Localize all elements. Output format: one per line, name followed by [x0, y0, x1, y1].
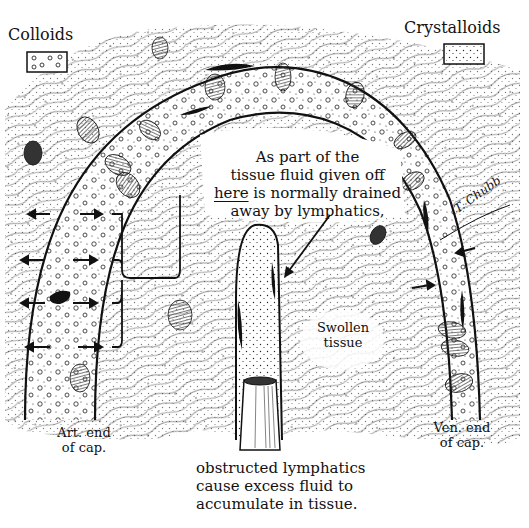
swollen-tissue-label: Swollen tissue [300, 320, 386, 350]
ven-end-label: Ven. end of cap. [422, 420, 502, 450]
main-note-line2: tissue fluid given off [195, 166, 420, 184]
diagram-canvas: Colloids Crystalloids As part of the tis… [0, 0, 529, 528]
main-note-line3: here is normally drained [195, 184, 420, 202]
swollen-line2: tissue [300, 335, 386, 350]
art-end-label: Art. end of cap. [44, 425, 124, 455]
ven-end-line2: of cap. [422, 435, 502, 450]
main-note-line3-rest: is normally drained [249, 184, 402, 202]
main-note-line1: As part of the [195, 148, 420, 166]
main-note-line4: away by lymphatics, [195, 202, 420, 220]
main-annotation: As part of the tissue fluid given off he… [195, 148, 420, 220]
legend-crystalloids-label: Crystalloids [404, 20, 501, 37]
bottom-note-line1: obstructed lymphatics [196, 459, 396, 477]
ven-end-line1: Ven. end [422, 420, 502, 435]
bottom-note-line2: cause excess fluid to [196, 477, 396, 495]
legend-colloids-label: Colloids [8, 27, 73, 44]
bottom-annotation: obstructed lymphatics cause excess fluid… [196, 459, 396, 513]
art-end-line2: of cap. [44, 440, 124, 455]
lymphatic-vessel [236, 225, 282, 450]
swollen-line1: Swollen [300, 320, 386, 335]
bottom-note-line3: accumulate in tissue. [196, 495, 396, 513]
art-end-line1: Art. end [44, 425, 124, 440]
here-emphasis: here [214, 184, 249, 202]
